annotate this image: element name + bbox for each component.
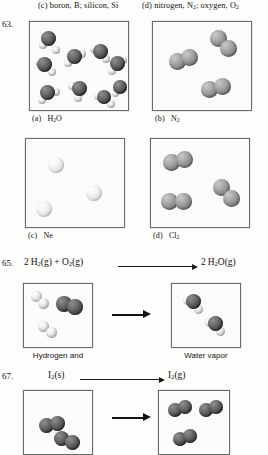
q65-right-species: H — [208, 257, 215, 267]
q65-right-coefficient: 2 — [201, 257, 206, 267]
q65-product-caption: Water vapor — [164, 351, 248, 360]
q67-equation-arrow-line — [80, 379, 160, 380]
header-option-d-mid-text: ; oxygen, O — [196, 1, 236, 10]
q63-panel-c-label: (c) — [28, 231, 37, 240]
q65-left-species-1-state: (g) — [41, 257, 52, 267]
question-67-number: 67. — [2, 371, 13, 381]
q67-product-box — [158, 390, 230, 455]
q63-panel-d-box — [150, 138, 250, 228]
q65-right-species-tail: O — [218, 257, 225, 267]
q63-panel-d-subscript: 2 — [177, 234, 180, 240]
q67-reaction-arrow-head — [143, 413, 151, 421]
q63-panel-b-label: (b) — [155, 114, 165, 123]
q67-equation-right: I2(g) — [168, 370, 185, 380]
header-option-d-sub-2: 2 — [236, 4, 239, 10]
q65-reactant-caption: Hydrogen and — [16, 351, 100, 360]
header-option-d-text: (d) nitrogen, N — [142, 1, 193, 10]
q65-product-box — [171, 283, 241, 348]
q65-reactant-box — [23, 283, 93, 348]
question-65-number: 65. — [2, 258, 13, 268]
q67-left-species-state: (s) — [54, 370, 64, 380]
header-option-d: (d) nitrogen, N2; oxygen, O2 — [142, 1, 239, 10]
q65-left-species-2-state: (g) — [72, 257, 83, 267]
q67-right-species-state: (g) — [174, 370, 185, 380]
q67-equation-left: I2(s) — [48, 370, 64, 380]
neon-atom — [36, 201, 52, 217]
q65-right-species-state: (g) — [225, 257, 236, 267]
neon-atom — [48, 157, 64, 173]
q63-panel-b-caption: (b)N2 — [155, 114, 179, 123]
q63-panel-c-caption: (c)Ne — [28, 231, 53, 240]
q65-left-species-1: H — [31, 257, 38, 267]
question-63-number: 63. — [2, 19, 13, 29]
q63-panel-a-box — [29, 21, 129, 111]
q65-plus-sign: + — [54, 257, 59, 267]
q63-panel-d-caption: (d)Cl2 — [153, 231, 179, 240]
q63-panel-d-label: (d) — [153, 231, 163, 240]
q65-left-coefficient: 2 — [24, 257, 29, 267]
q63-panel-b-subscript: 2 — [177, 117, 180, 123]
q63-panel-d-formula: Cl — [169, 231, 177, 240]
q65-equation-left: 2 H2(g) + O2(g) — [24, 257, 83, 267]
q63-panel-b-box — [152, 21, 252, 111]
q65-reaction-arrow-line — [112, 314, 144, 316]
q63-panel-c-formula: Ne — [43, 231, 52, 240]
q63-panel-a-formula-tail: O — [56, 114, 62, 123]
q65-equation-right: 2 H2O(g) — [201, 257, 236, 267]
q63-panel-a-label: (a) — [32, 114, 41, 123]
neon-atom — [86, 185, 102, 201]
q67-equation-arrow-head — [159, 377, 165, 383]
header-option-c-text: (c) boron, B; silicon, Si — [38, 1, 118, 10]
q65-reaction-arrow-head — [143, 310, 151, 318]
header-option-c: (c) boron, B; silicon, Si — [38, 1, 118, 10]
q63-panel-a-caption: (a)H2O — [32, 114, 62, 123]
q63-panel-c-box — [25, 138, 125, 228]
q67-reaction-arrow-line — [112, 417, 144, 419]
q65-equation-arrow-head — [192, 264, 198, 270]
q65-equation-arrow-line — [118, 266, 193, 267]
q67-reactant-box — [23, 390, 93, 455]
q65-left-species-2: O — [62, 257, 69, 267]
